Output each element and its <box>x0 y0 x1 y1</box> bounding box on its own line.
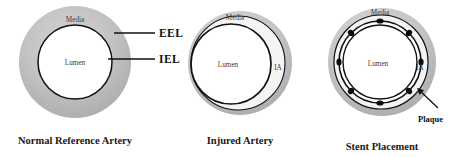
label-media-normal: Media <box>66 16 85 24</box>
panel-stent-placement: Media Lumen IA Plaque Stent Placement <box>328 8 443 152</box>
caption-injured-artery: Injured Artery <box>207 135 274 146</box>
panel-injured-artery: Media Lumen IA Injured Artery <box>188 11 292 146</box>
stent-strut <box>336 58 341 65</box>
label-injured-area-injured: IA <box>274 64 282 72</box>
label-lumen-injured: Lumen <box>218 61 239 69</box>
label-eel: EEL <box>159 27 183 39</box>
label-media-injured: Media <box>226 14 245 22</box>
label-lumen-stent: Lumen <box>368 60 389 68</box>
caption-stent-placement: Stent Placement <box>346 141 419 152</box>
caption-normal-reference-artery: Normal Reference Artery <box>18 135 133 146</box>
stent-strut <box>376 100 383 105</box>
stent-strut <box>376 18 383 23</box>
label-lumen-normal: Lumen <box>65 59 86 67</box>
panel-normal-reference-artery: Media Lumen EEL IEL Normal Reference Art… <box>18 6 183 146</box>
label-injured-area-stent: IA <box>416 64 424 72</box>
artery-cross-section-diagram: Media Lumen EEL IEL Normal Reference Art… <box>0 0 471 157</box>
label-plaque: Plaque <box>418 114 443 124</box>
label-iel: IEL <box>159 53 180 65</box>
label-media-stent: Media <box>371 9 390 17</box>
